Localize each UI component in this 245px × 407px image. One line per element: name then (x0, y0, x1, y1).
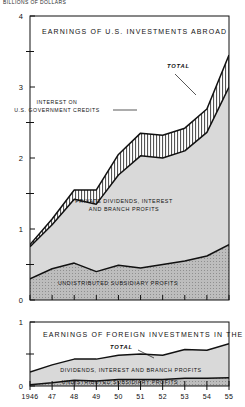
top-undistributed-label: UNDISTRIBUTED SUBSIDIARY PROFITS (58, 280, 178, 286)
top-panel-areas (30, 55, 229, 300)
top-y-tick-3: 3 (19, 83, 23, 92)
top-y-tick-0: 0 (19, 296, 23, 305)
bottom-undistributed-label: UNDISTRIBUTED SUBSIDIARY PROFITS (62, 379, 178, 385)
figure-root: BILLIONS OF DOLLARS (0, 0, 245, 407)
bottom-y-tick-0: 0 (19, 382, 23, 391)
x-tick-47: 47 (48, 393, 56, 400)
bottom-total-label: TOTAL (110, 344, 133, 350)
chart-canvas: 43210 EARNINGS OF U.S. INVESTMENTS ABROA… (0, 0, 245, 407)
bottom-panel-title: EARNINGS OF FOREIGN INVESTMENTS IN THE U… (43, 331, 245, 338)
x-tick-48: 48 (70, 393, 78, 400)
top-panel: 43210 EARNINGS OF U.S. INVESTMENTS ABROA… (14, 12, 229, 305)
top-interest-label-line2: U.S. GOVERNMENT CREDITS (14, 107, 99, 113)
x-tick-52: 52 (158, 393, 166, 400)
top-total-label: TOTAL (167, 63, 190, 69)
bottom-y-tick-1: 1 (19, 318, 23, 327)
bottom-panel: 10 EARNINGS OF FOREIGN INVESTMENTS IN TH… (19, 318, 245, 391)
x-tick-54: 54 (203, 393, 211, 400)
x-tick-55: 55 (225, 393, 233, 400)
top-y-tick-1: 1 (19, 225, 23, 234)
x-axis-labels: 1946474849505152535455 (22, 393, 234, 400)
top-private-label-line2: AND BRANCH PROFITS (89, 206, 159, 212)
x-tick-50: 50 (114, 393, 122, 400)
top-y-labels: 43210 (19, 12, 23, 305)
top-private-label-line1: PRIVATE DIVIDENDS, INTEREST (75, 198, 173, 204)
bottom-dividends-label: DIVIDENDS, INTEREST AND BRANCH PROFITS (60, 367, 202, 373)
x-tick-51: 51 (136, 393, 144, 400)
top-total-leader (175, 74, 196, 95)
top-y-tick-4: 4 (19, 12, 23, 21)
top-panel-title: EARNINGS OF U.S. INVESTMENTS ABROAD (42, 28, 227, 35)
top-interest-label-line1: INTEREST ON (37, 99, 78, 105)
bottom-y-labels: 10 (19, 318, 23, 391)
top-y-tick-2: 2 (19, 154, 23, 163)
units-label: BILLIONS OF DOLLARS (3, 0, 66, 5)
x-tick-1946: 1946 (22, 393, 39, 400)
x-tick-49: 49 (92, 393, 100, 400)
x-tick-53: 53 (181, 393, 189, 400)
